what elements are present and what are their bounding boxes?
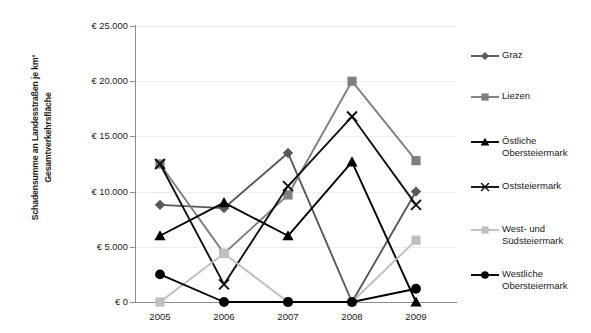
legend-marker-diamond-icon bbox=[470, 49, 500, 63]
legend-label-liezen: Liezen bbox=[500, 90, 530, 102]
legend-label-oststeiermark: Oststeiermark bbox=[500, 180, 561, 192]
legend-label-graz: Graz bbox=[500, 49, 523, 61]
series-stliche-obersteiermark bbox=[154, 156, 421, 306]
legend-marker-triangle-icon bbox=[470, 135, 500, 149]
legend-marker-x-icon bbox=[470, 180, 500, 194]
legend-marker-square-icon bbox=[470, 90, 500, 104]
legend-item-graz[interactable]: Graz bbox=[470, 49, 523, 63]
legend-marker-circle-icon bbox=[470, 268, 500, 282]
legend-label-west-und-suedsteiermark: West- und Südsteiermark bbox=[500, 223, 563, 246]
legend-item-liezen[interactable]: Liezen bbox=[470, 90, 530, 104]
series-oststeiermark bbox=[155, 112, 421, 290]
legend-marker-square-light-icon bbox=[470, 223, 500, 237]
legend-item-westliche-obersteiermark[interactable]: Westliche Obersteiermark bbox=[470, 268, 567, 291]
legend-item-oestliche-obersteiermark[interactable]: Östliche Obersteiermark bbox=[470, 135, 567, 158]
legend-item-oststeiermark[interactable]: Oststeiermark bbox=[470, 180, 561, 194]
legend-item-west-und-suedsteiermark[interactable]: West- und Südsteiermark bbox=[470, 223, 563, 246]
chart-container: Schadensumme an Landesstraßen je km² Ges… bbox=[0, 0, 591, 333]
legend-label-westliche-obersteiermark: Westliche Obersteiermark bbox=[500, 268, 567, 291]
legend-label-oestliche-obersteiermark: Östliche Obersteiermark bbox=[500, 135, 567, 158]
